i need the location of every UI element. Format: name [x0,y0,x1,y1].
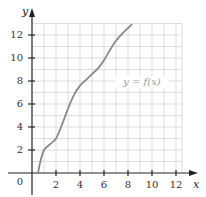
grid [32,24,182,174]
y-tick-label: 6 [17,98,23,109]
y-axis-label: y [21,5,29,18]
y-tick-label: 10 [10,52,23,63]
tick-labels: 2 4 6 8 10 12 2 4 6 8 10 12 0 x y [10,5,200,191]
y-tick-label: 8 [17,75,23,86]
origin-label: 0 [17,176,23,187]
x-tick-label: 10 [146,179,159,190]
function-curve [38,25,132,173]
x-tick-label: 2 [53,179,59,190]
x-tick-label: 6 [101,179,107,190]
x-tick-label: 4 [77,179,83,190]
x-axis-arrow-icon [189,170,198,176]
y-tick-label: 4 [17,121,23,132]
x-axis-label: x [193,178,200,191]
curve-label: y = f(x) [122,76,161,87]
y-tick-label: 12 [10,29,23,40]
y-axis-arrow-icon [29,8,35,17]
x-tick-label: 8 [125,179,131,190]
axes [8,8,198,195]
ticks [28,35,176,176]
x-tick-label: 12 [170,179,183,190]
y-tick-label: 2 [17,144,23,155]
function-graph: 2 4 6 8 10 12 2 4 6 8 10 12 0 x y y = f(… [0,0,206,197]
